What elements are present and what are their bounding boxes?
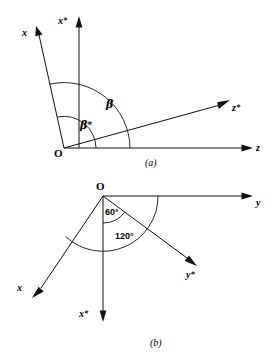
z-star-axis-arrowhead (217, 100, 230, 109)
angle-120-arc (66, 196, 159, 251)
x-star-axis-arrowhead (76, 16, 83, 28)
panel-b-caption: (b) (150, 338, 162, 348)
panel-b-angle-120-label: 120° (115, 232, 134, 241)
x-axis-arrowhead-b (32, 287, 44, 298)
panel-b-graphics (32, 193, 253, 322)
panel-a-z-axis (64, 145, 253, 152)
panel-b-y-axis (103, 193, 253, 200)
figure-container: x x* z* z O β β* (a) O y y* x x* 60° 120… (0, 0, 276, 364)
panel-a-caption: (a) (145, 158, 157, 168)
diagram-svg (0, 0, 276, 364)
panel-a-graphics (35, 16, 253, 152)
panel-a-beta-star-label: β* (80, 120, 92, 131)
panel-a-x-axis (35, 26, 64, 148)
panel-a-x-star-axis-label: x* (58, 16, 67, 26)
panel-b-angle-60-label: 60° (105, 208, 119, 217)
panel-a-x-axis-label: x (22, 28, 27, 38)
y-axis-arrowhead (242, 193, 254, 200)
x-axis-arrowhead (35, 26, 42, 36)
panel-a-z-axis-label: z (256, 143, 260, 153)
panel-a-z-star-axis-label: z* (232, 103, 240, 113)
panel-a-origin-label: O (54, 148, 63, 159)
panel-b-y-star-axis-label: y* (186, 270, 195, 280)
panel-a-beta-label: β (106, 99, 113, 110)
panel-b-x-axis-label: x (17, 283, 22, 293)
x-star-axis-arrowhead-b (100, 311, 107, 323)
panel-b-y-axis-label: y (256, 198, 260, 208)
panel-b-x-star-axis-label: x* (79, 309, 88, 319)
panel-b-x-axis (32, 196, 103, 298)
panel-b-origin-label: O (96, 181, 105, 192)
z-axis-arrowhead (242, 145, 254, 152)
